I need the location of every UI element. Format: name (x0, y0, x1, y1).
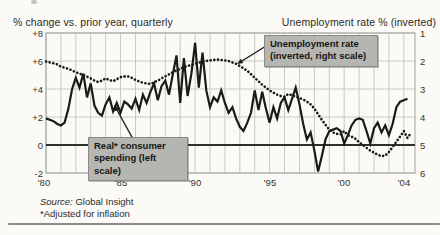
spending-legend-box: Real* consumer spending (left scale) (88, 137, 188, 181)
left-tick-plus4: +4 (17, 84, 43, 95)
left-tick-plus8: +8 (17, 28, 43, 39)
unemployment-legend-line1: Unemployment rate (270, 38, 372, 50)
right-tick-2: 2 (420, 56, 434, 67)
source-label: Source: (40, 196, 73, 207)
spending-legend-line1: Real* consumer (94, 140, 182, 152)
x-tick-2004: '04 (389, 177, 419, 188)
x-tick-1995: '95 (255, 177, 285, 188)
left-tick-plus2: +2 (17, 112, 43, 123)
spending-callout-arrow (114, 105, 133, 139)
right-tick-1: 1 (420, 28, 434, 39)
right-tick-6: 6 (420, 168, 434, 179)
left-tick-zero: 0 (17, 140, 43, 151)
right-tick-5: 5 (420, 140, 434, 151)
spending-legend-line2: spending (left scale) (94, 152, 182, 177)
unemployment-legend-line2: (inverted, right scale) (270, 50, 372, 62)
bottom-rule (8, 223, 440, 225)
left-tick-plus6: +6 (17, 56, 43, 67)
source-value: Global Insight (75, 196, 133, 207)
right-tick-3: 3 (420, 84, 434, 95)
source-note: Source: Global Insight (40, 196, 133, 207)
chart-panel: % change vs. prior year, quarterly Unemp… (0, 0, 440, 235)
unemployment-legend-box: Unemployment rate (inverted, right scale… (264, 35, 378, 67)
x-tick-2000: '00 (329, 177, 359, 188)
inflation-footnote: *Adjusted for inflation (40, 208, 130, 219)
x-tick-1980: '80 (29, 177, 59, 188)
right-tick-4: 4 (420, 112, 434, 123)
